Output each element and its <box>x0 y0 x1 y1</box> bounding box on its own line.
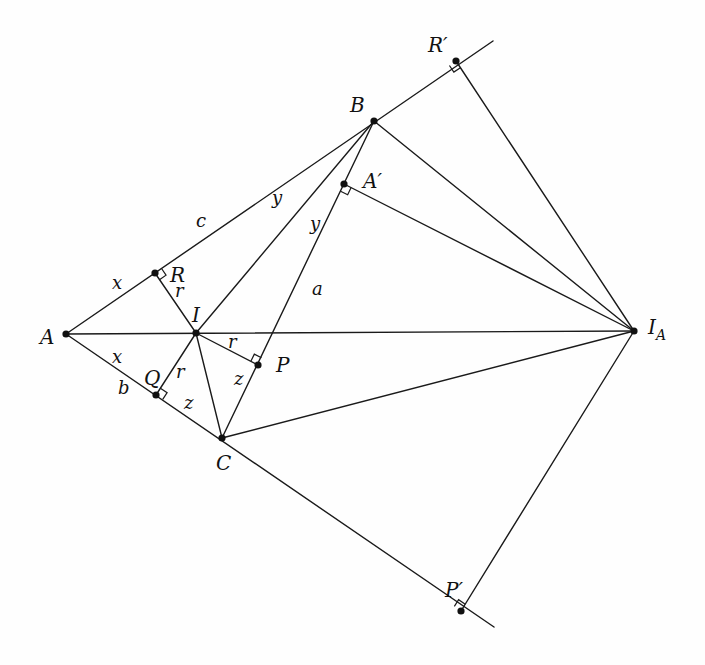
point-label-Q: Q <box>144 366 160 390</box>
label-x-upper: x <box>112 272 122 293</box>
point-label-C: C <box>216 451 231 475</box>
point-label-B: B <box>349 93 365 117</box>
label-r-IQ: r <box>176 361 186 382</box>
label-y-bc: y <box>309 213 321 234</box>
geometry-diagram: ABCIRQPA′IAR′P′xxbcyyarrrzz <box>0 0 705 665</box>
point-label-IA: IA <box>647 315 666 343</box>
points-layer <box>62 57 637 614</box>
segment-IP <box>196 333 258 365</box>
segment-Rp-IA <box>456 61 634 331</box>
segment-B-IA <box>374 121 634 331</box>
segment-C-IA <box>222 331 634 438</box>
segment-Pp-IA <box>461 331 634 611</box>
point-P <box>254 361 261 368</box>
label-c: c <box>196 210 206 231</box>
diagram-canvas: ABCIRQPA′IAR′P′xxbcyyarrrzz <box>0 0 705 665</box>
label-a: a <box>312 278 323 299</box>
right-angle-R <box>159 269 166 280</box>
point-B <box>370 117 377 124</box>
label-z-PC: z <box>233 368 244 389</box>
point-C <box>218 434 225 441</box>
point-label-Ap: A′ <box>361 169 382 193</box>
point-IA <box>630 327 637 334</box>
line-AC-extended <box>66 334 494 627</box>
point-label-I: I <box>191 303 201 327</box>
label-r-IR: r <box>175 280 185 301</box>
label-b: b <box>118 377 130 398</box>
point-label-A: A <box>38 325 54 349</box>
segment-IC <box>196 333 222 438</box>
label-z-QC: z <box>183 392 194 413</box>
point-Ap <box>340 180 347 187</box>
segment-BC <box>222 121 374 438</box>
point-I <box>192 329 199 336</box>
right-angle-markers-layer <box>159 65 465 606</box>
label-r-IP: r <box>228 331 238 352</box>
right-angle-Q <box>160 388 167 399</box>
segment-A-IA <box>66 331 634 334</box>
point-Pp <box>457 607 464 614</box>
point-Q <box>152 391 159 398</box>
segment-Ap-IA <box>344 184 634 331</box>
point-label-P: P <box>275 353 290 377</box>
point-R <box>151 269 158 276</box>
labels-layer: ABCIRQPA′IAR′P′xxbcyyarrrzz <box>38 33 666 602</box>
point-Rp <box>452 57 459 64</box>
label-y-ab: y <box>271 187 283 208</box>
label-x-lower: x <box>112 346 122 367</box>
point-label-Rp: R′ <box>427 33 448 57</box>
segments-layer <box>66 41 634 627</box>
point-label-Pp: P′ <box>444 578 463 602</box>
point-A <box>62 330 69 337</box>
